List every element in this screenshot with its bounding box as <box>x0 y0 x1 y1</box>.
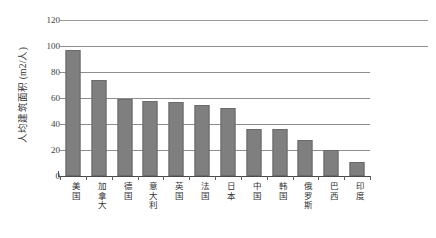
x-axis-category-label: 中国 <box>248 182 260 201</box>
y-tick-label: 0 <box>26 171 60 181</box>
bar-slot <box>344 20 370 176</box>
x-axis-category-label: 德国 <box>119 182 131 201</box>
x-tick-mark <box>86 176 87 180</box>
bar-slot <box>215 20 241 176</box>
y-tick-label: 80 <box>26 67 60 77</box>
y-axis-line <box>58 171 59 177</box>
bar-slot <box>267 20 293 176</box>
bar <box>117 99 132 176</box>
y-axis-ticks: 020406080100120 <box>16 0 60 238</box>
x-tick-mark <box>241 176 242 180</box>
x-tick-mark <box>138 176 139 180</box>
bar <box>169 102 184 176</box>
x-tick-mark <box>215 176 216 180</box>
bar-slot <box>318 20 344 176</box>
bar <box>91 80 106 176</box>
bar-slot <box>163 20 189 176</box>
bar-slot <box>138 20 164 176</box>
x-tick-mark <box>293 176 294 180</box>
x-axis-category-label: 美国 <box>67 182 79 201</box>
x-axis-category-label: 英国 <box>170 182 182 201</box>
x-tick-mark <box>163 176 164 180</box>
bar <box>195 105 210 177</box>
y-tick-label: 60 <box>26 93 60 103</box>
bar <box>246 129 261 176</box>
bar-slot <box>293 20 319 176</box>
bar-slot <box>112 20 138 176</box>
x-tick-mark <box>370 176 371 180</box>
bar <box>220 108 235 176</box>
x-axis-category-label: 意大利 <box>144 182 156 211</box>
bar-slot <box>189 20 215 176</box>
x-axis-category-label: 巴西 <box>325 182 337 201</box>
x-axis-category-label: 加拿大 <box>93 182 105 211</box>
bar-slot <box>241 20 267 176</box>
x-axis-category-label: 俄罗斯 <box>299 182 311 211</box>
x-tick-mark <box>318 176 319 180</box>
y-tick-label: 120 <box>26 15 60 25</box>
bar <box>65 50 80 176</box>
x-tick-mark <box>267 176 268 180</box>
y-tick-label: 40 <box>26 119 60 129</box>
x-axis-category-label: 印度 <box>351 182 363 201</box>
x-tick-mark <box>112 176 113 180</box>
x-tick-mark <box>60 176 61 180</box>
bar-series <box>60 20 370 176</box>
x-axis-category-label: 韩国 <box>274 182 286 201</box>
x-axis-line <box>58 176 370 177</box>
bar <box>272 129 287 176</box>
x-axis-category-label: 日本 <box>222 182 234 201</box>
x-tick-mark <box>189 176 190 180</box>
bar-slot <box>60 20 86 176</box>
x-tick-mark <box>344 176 345 180</box>
x-axis-category-label: 法国 <box>196 182 208 201</box>
bar <box>298 140 313 176</box>
bar <box>324 150 339 176</box>
bar <box>143 101 158 176</box>
x-axis-labels: 美国加拿大德国意大利英国法国日本中国韩国俄罗斯巴西印度 <box>60 182 370 236</box>
bar <box>350 162 365 176</box>
y-tick-label: 100 <box>26 41 60 51</box>
bar-chart: 人均建筑面积 (m2/人) 020406080100120 美国加拿大德国意大利… <box>0 0 436 238</box>
bar-slot <box>86 20 112 176</box>
y-tick-label: 20 <box>26 145 60 155</box>
